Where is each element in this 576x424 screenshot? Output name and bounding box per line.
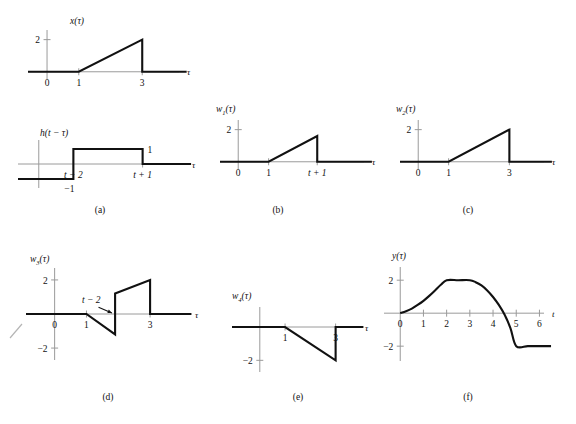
y-tick-label: 2 (43, 276, 48, 286)
x-tick-label: 6 (537, 319, 542, 329)
x-tick-label: 1 (84, 320, 89, 330)
y-tick-label: 2 (388, 276, 393, 286)
x-tick-label: 4 (491, 319, 496, 329)
y-tick-label: −2 (243, 356, 253, 366)
signal-trace (28, 40, 187, 72)
x-tick-label: 0 (398, 319, 403, 329)
x-axis-label: τ (552, 157, 556, 167)
level-label-positive: 1 (148, 145, 153, 155)
panel-a-bottom: t − 2t + 1τh(t − τ)1−1 (8, 118, 208, 210)
panel-a-top: 0132τx(τ) (18, 8, 203, 103)
signal-trace (220, 136, 372, 162)
panel-b: 01t + 12τw1(τ) (208, 98, 388, 193)
x-tick-label: 0 (416, 168, 421, 178)
y-tick-label: 2 (35, 35, 40, 45)
y-axis-label: w1(τ) (216, 104, 235, 116)
x-tick-label: 5 (514, 319, 519, 329)
y-axis-label: w4(τ) (232, 291, 251, 303)
x-tick-label: 3 (148, 320, 153, 330)
panel-caption-a: (a) (70, 205, 130, 215)
x-axis-label: τ (192, 160, 196, 170)
convolution-figure: 0132τx(τ)t − 2t + 1τh(t − τ)1−1(a)01t + … (0, 0, 576, 424)
y-tick-label: 2 (406, 125, 411, 135)
y-axis-label: x(τ) (69, 16, 84, 27)
x-tick-label: 0 (52, 320, 57, 330)
y-tick-label: 2 (226, 125, 231, 135)
x-tick-label: 1 (76, 78, 81, 88)
panel-caption-f: (f) (438, 392, 498, 402)
panel-caption-c: (c) (438, 205, 498, 215)
x-tick-label: t + 1 (133, 170, 152, 180)
x-tick-label: 0 (45, 78, 50, 88)
panel-f: 01234562−2ty(τ) (368, 245, 568, 385)
x-axis-label: τ (187, 67, 191, 77)
panel-c: 0132τw2(τ) (388, 98, 568, 193)
y-tick-label: −2 (38, 344, 48, 354)
y-tick-label: −2 (383, 342, 393, 352)
panel-e: 13−2τw4(τ) (218, 285, 383, 390)
x-tick-label: 3 (507, 168, 512, 178)
scan-artifact (10, 324, 22, 338)
x-tick-label: 2 (444, 319, 449, 329)
annotation-label: t − 2 (82, 295, 101, 305)
panel-caption-d: (d) (78, 392, 138, 402)
x-axis-label: τ (372, 157, 376, 167)
signal-trace (400, 130, 552, 162)
level-label-negative: −1 (64, 184, 74, 194)
y-axis-label: w2(τ) (396, 104, 415, 116)
x-axis-label: τ (195, 310, 199, 320)
y-axis-label: w3(τ) (30, 254, 49, 266)
panel-d: 0132−2τw3(τ)t − 2 (8, 248, 213, 380)
panel-caption-b: (b) (248, 205, 308, 215)
x-tick-label: 1 (446, 168, 451, 178)
x-axis-label: t (552, 309, 555, 319)
x-tick-label: t + 1 (308, 168, 327, 178)
y-axis-label: h(t − τ) (40, 128, 68, 139)
x-tick-label: 1 (421, 319, 426, 329)
x-tick-label: 3 (467, 319, 472, 329)
x-tick-label: 1 (283, 333, 288, 343)
x-tick-label: 0 (236, 168, 241, 178)
x-tick-label: 1 (266, 168, 271, 178)
x-tick-label: 3 (140, 78, 145, 88)
panel-caption-e: (e) (268, 392, 328, 402)
signal-trace (26, 280, 191, 335)
y-axis-label: y(τ) (391, 251, 406, 262)
